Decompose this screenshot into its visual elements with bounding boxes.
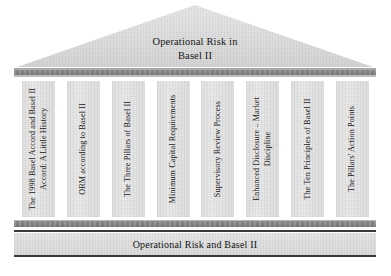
column-1[interactable]: The 1998 Basel Accord and Basel II Accor… (22, 81, 55, 217)
column-6-label: Enhanced Disclosure – Market Discipline (252, 84, 274, 214)
base-plinth[interactable]: Operational Risk and Basel II (14, 233, 376, 255)
column-4-label: Minimum Capital Requirements (168, 84, 179, 214)
stylobate-rule (14, 230, 376, 232)
column-3-label: The Three Pillars of Basel II (123, 84, 134, 214)
colonnade: The 1998 Basel Accord and Basel II Accor… (22, 81, 369, 217)
column-7-label: The Ten Principles of Basel II (302, 84, 313, 214)
base-label: Operational Risk and Basel II (133, 239, 258, 250)
architrave-bottom-edge (14, 75, 376, 77)
column-8[interactable]: The Pillars' Action Points (336, 81, 369, 217)
column-1-label: The 1998 Basel Accord and Basel II Accor… (28, 84, 50, 214)
stylobate-band (14, 221, 376, 227)
temple-diagram: Operational Risk in Basel II The 1998 Ba… (0, 0, 391, 276)
column-5-label: Supervisory Review Process (212, 84, 223, 214)
column-2[interactable]: ORM according to Basel II (67, 81, 100, 217)
column-2-label: ORM according to Basel II (78, 84, 89, 214)
column-8-label: The Pillars' Action Points (347, 84, 358, 214)
column-6[interactable]: Enhanced Disclosure – Market Discipline (246, 81, 279, 217)
column-5[interactable]: Supervisory Review Process (201, 81, 234, 217)
pediment-title-line-1: Operational Risk in (17, 35, 373, 49)
base-bottom-rule (14, 255, 376, 257)
column-3[interactable]: The Three Pillars of Basel II (112, 81, 145, 217)
pediment: Operational Risk in Basel II (17, 5, 373, 67)
pediment-title-line-2: Basel II (17, 49, 373, 63)
pediment-title: Operational Risk in Basel II (17, 35, 373, 63)
column-7[interactable]: The Ten Principles of Basel II (291, 81, 324, 217)
column-4[interactable]: Minimum Capital Requirements (157, 81, 190, 217)
